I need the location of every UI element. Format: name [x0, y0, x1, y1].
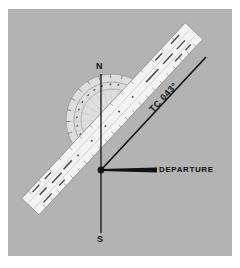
- departure-point: [98, 167, 105, 174]
- plotter-diagram: [0, 0, 240, 268]
- plotter-ruler: [22, 23, 203, 215]
- departure-label: DEPARTURE: [159, 166, 214, 174]
- departure-pointer: [101, 168, 157, 173]
- south-label: S: [97, 235, 103, 244]
- north-label: N: [96, 62, 103, 71]
